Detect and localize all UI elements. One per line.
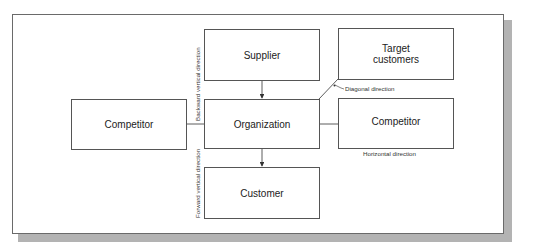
node-competitor-right-label: Competitor [372,116,421,127]
diagonal-pointer-dot [334,85,336,87]
node-target-customers: Target customers [338,28,454,80]
label-diagonal: Diagonal direction [345,85,395,92]
node-competitor-left: Competitor [71,99,187,150]
node-organization-label: Organization [234,119,291,130]
label-horizontal: Horizontal direction [363,150,416,157]
node-supplier-label: Supplier [244,50,281,61]
label-forward-vertical: Forward vertical direction [194,149,201,218]
node-supplier: Supplier [204,29,320,81]
node-competitor-right: Competitor [338,98,454,149]
node-competitor-left-label: Competitor [105,119,154,130]
node-organization: Organization [204,99,320,149]
node-customer: Customer [204,167,320,219]
node-target-customers-label: Target customers [366,43,426,65]
diagonal-label-pointer [335,85,344,89]
node-customer-label: Customer [240,188,283,199]
label-backward-vertical: Backward vertical direction [194,47,201,121]
edge-organization-target-customers [319,79,338,99]
